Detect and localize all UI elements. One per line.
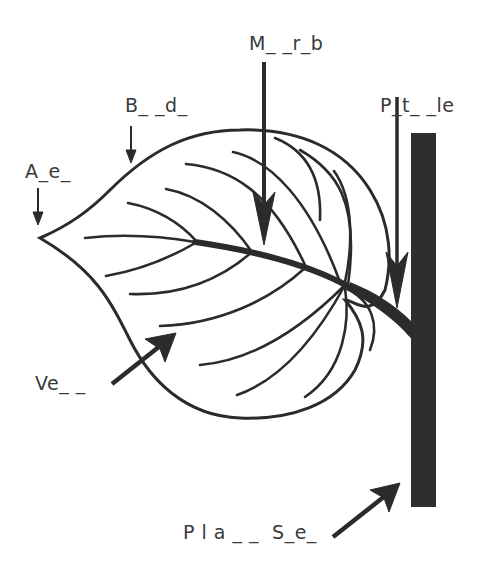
label-vein: Ve_ _ bbox=[35, 374, 86, 393]
label-apex: A_e_ bbox=[25, 162, 71, 181]
label-midrib: M_ _r_b bbox=[249, 34, 323, 53]
plant-stem-shape bbox=[411, 133, 436, 507]
leaf-diagram bbox=[0, 0, 483, 575]
label-plant-stem: P l a _ _ S_e_ bbox=[183, 523, 317, 542]
plant-stem-arrow bbox=[333, 492, 390, 537]
label-petiole: P_t_ _le bbox=[380, 96, 454, 115]
label-blade: B_ _d_ bbox=[125, 96, 188, 115]
